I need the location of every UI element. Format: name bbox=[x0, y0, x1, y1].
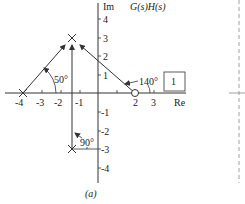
real-tick-label: -1 bbox=[75, 97, 83, 108]
angle-label-50: 50° bbox=[54, 74, 68, 85]
diagram-title: G(s)H(s) bbox=[130, 1, 166, 13]
imag-tick-label: 4 bbox=[103, 14, 108, 25]
angle-label-140: 140° bbox=[139, 76, 158, 87]
pole-marker bbox=[68, 34, 76, 42]
imag-tick-label: 2 bbox=[103, 51, 108, 62]
angle-pointer-140 bbox=[125, 81, 138, 84]
imag-tick-label: -3 bbox=[101, 144, 109, 155]
vector-from-pole-minus4 bbox=[23, 45, 65, 93]
imag-tick-label: -4 bbox=[101, 163, 109, 174]
gain-box-label: 1 bbox=[171, 76, 176, 87]
real-tick-label: 2 bbox=[133, 97, 138, 108]
angle-label-90: 90° bbox=[80, 137, 94, 148]
real-axis-label: Re bbox=[174, 97, 186, 108]
imag-tick-label: 1 bbox=[103, 70, 108, 81]
root-locus-diagram: -4 -3 -2 -1 2 3 Re 4 3 2 1 -1 -2 -3 -4 I… bbox=[0, 0, 245, 204]
real-tick-label: -3 bbox=[36, 97, 44, 108]
imag-tick-label: -1 bbox=[101, 107, 109, 118]
imag-tick-label: 3 bbox=[103, 33, 108, 44]
zero-marker bbox=[132, 90, 139, 97]
imag-axis-label: Im bbox=[103, 1, 114, 12]
real-tick-label: 3 bbox=[151, 97, 156, 108]
figure-caption: (a) bbox=[85, 188, 97, 200]
imag-tick-label: -2 bbox=[101, 126, 109, 137]
real-tick-label: -2 bbox=[54, 97, 62, 108]
real-tick-label: -4 bbox=[15, 97, 23, 108]
